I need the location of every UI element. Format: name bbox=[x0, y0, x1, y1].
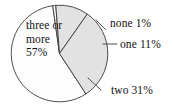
pie-chart-figure: three or more 57% none 1% one 11% two 31… bbox=[0, 0, 173, 108]
pie-label-none: none 1% bbox=[110, 17, 151, 31]
pie-label-one: one 11% bbox=[120, 38, 161, 52]
pie-label-three-or-more: three or more 57% bbox=[26, 19, 88, 60]
pie-label-three-or-more-line1: three or bbox=[26, 19, 88, 33]
pie-label-two: two 31% bbox=[111, 84, 153, 98]
pie-label-three-or-more-line3: 57% bbox=[26, 46, 88, 60]
pie-label-three-or-more-line2: more bbox=[26, 33, 88, 47]
